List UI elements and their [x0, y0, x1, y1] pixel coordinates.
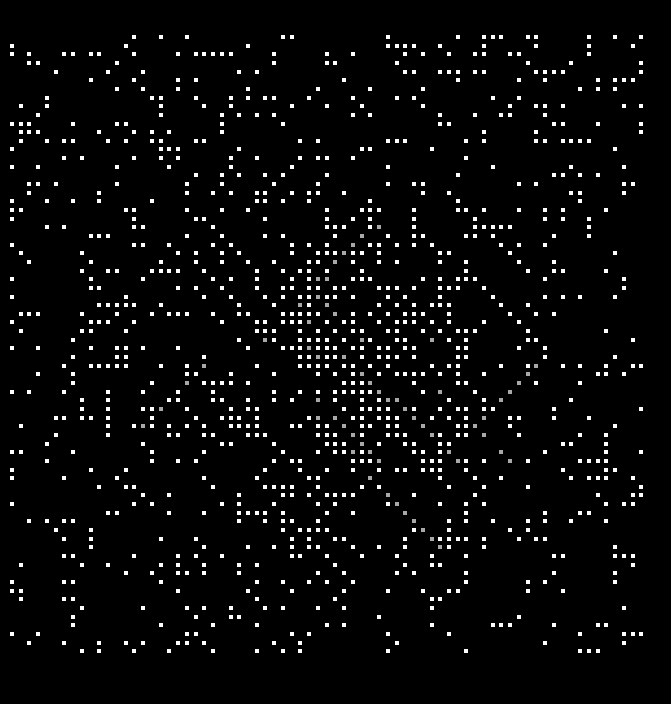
- recurrence-plot-figure: [0, 0, 671, 704]
- recurrence-plot-canvas: [0, 0, 671, 704]
